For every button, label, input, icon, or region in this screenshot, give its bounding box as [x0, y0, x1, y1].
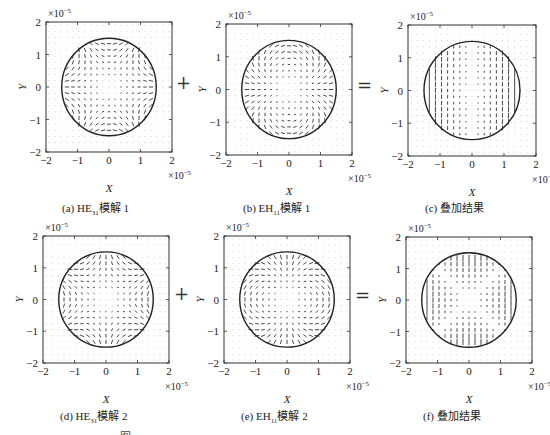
x-axis-label: X: [105, 182, 114, 194]
quiver-plot: −2−2−1−1001122×10−5×10−5XY: [43, 236, 169, 363]
caption-a: (a) HE31模解 1: [62, 199, 129, 217]
y-tick-label: 2: [398, 19, 404, 31]
y-tick-label: 2: [214, 230, 220, 242]
panel-e: −2−2−1−1001122×10−5×10−5XY: [224, 236, 350, 363]
y-tick-label: 1: [216, 51, 222, 63]
y-multiplier: ×10−5: [408, 222, 432, 234]
y-tick-label: −1: [389, 326, 401, 338]
x-axis-label: X: [285, 185, 294, 197]
y-tick-label: −2: [391, 150, 403, 162]
x-tick-label: 0: [284, 365, 290, 377]
y-tick-label: 0: [396, 294, 402, 306]
x-tick-label: 0: [466, 365, 472, 377]
x-tick-label: 0: [106, 154, 112, 166]
y-axis-label: Y: [376, 295, 388, 303]
y-tick-label: −1: [29, 114, 41, 126]
plus-operator: +: [176, 72, 191, 93]
y-tick-label: −1: [391, 117, 403, 129]
y-tick-label: 0: [36, 81, 42, 93]
x-tick-label: −1: [432, 365, 444, 377]
x-axis-label: X: [102, 393, 111, 405]
y-tick-label: −1: [209, 116, 221, 128]
y-axis-label: Y: [13, 295, 25, 303]
y-axis-label: Y: [194, 295, 206, 303]
x-axis-label: X: [468, 186, 477, 198]
x-tick-label: −2: [40, 154, 52, 166]
y-tick-label: −2: [26, 357, 38, 369]
quiver-plot: −2−2−1−1001122×10−5×10−5XY: [406, 237, 532, 363]
panel-b: −2−2−1−1001122×10−5×10−5XY: [226, 24, 352, 155]
x-tick-label: 1: [318, 157, 324, 169]
panel-f: −2−2−1−1001122×10−5×10−5XY: [406, 237, 532, 363]
equals-operator: =: [355, 285, 370, 306]
x-tick-label: 2: [169, 154, 175, 166]
equals-operator: =: [357, 75, 372, 96]
x-tick-label: 0: [286, 157, 292, 169]
y-axis-label: Y: [196, 85, 208, 93]
y-tick-label: 2: [33, 230, 39, 242]
x-tick-label: −1: [250, 365, 262, 377]
panel-c: −2−2−1−1001122×10−5×10−5XY: [408, 25, 536, 156]
y-tick-label: −2: [389, 357, 401, 369]
y-tick-label: 1: [36, 49, 42, 61]
x-tick-label: 2: [533, 158, 539, 170]
y-tick-label: 1: [214, 262, 220, 274]
x-tick-label: −1: [69, 365, 81, 377]
y-multiplier: ×10−5: [410, 10, 434, 22]
y-tick-label: 1: [398, 52, 404, 64]
x-tick-label: 1: [135, 365, 141, 377]
x-tick-label: −2: [402, 158, 414, 170]
plus-operator: +: [174, 283, 189, 304]
quiver-plot: −2−2−1−1001122×10−5×10−5XY: [408, 25, 536, 156]
y-tick-label: 0: [398, 85, 404, 97]
y-tick-label: −1: [26, 325, 38, 337]
x-tick-label: −2: [400, 365, 412, 377]
y-multiplier: ×10−5: [45, 221, 69, 233]
x-tick-label: 1: [316, 365, 322, 377]
x-tick-label: −2: [220, 157, 232, 169]
y-tick-label: −1: [207, 325, 219, 337]
panel-d: −2−2−1−1001122×10−5×10−5XY: [43, 236, 169, 363]
x-tick-label: 0: [469, 158, 475, 170]
x-axis-label: X: [465, 393, 474, 405]
x-tick-label: 1: [501, 158, 507, 170]
y-tick-label: 0: [33, 294, 39, 306]
caption-c: (c) 叠加结果: [425, 199, 484, 217]
y-tick-label: 0: [214, 294, 220, 306]
x-tick-label: 1: [138, 154, 144, 166]
x-tick-label: −1: [252, 157, 264, 169]
caption-e: (e) EH11模解 2: [241, 407, 308, 425]
y-multiplier: ×10−5: [228, 9, 252, 21]
figure-caption: 图: [120, 428, 131, 435]
y-tick-label: −2: [207, 357, 219, 369]
y-tick-label: 2: [396, 231, 402, 243]
x-multiplier: ×10−5: [346, 380, 370, 392]
x-multiplier: ×10−5: [528, 380, 550, 392]
y-tick-label: 2: [216, 18, 222, 30]
x-multiplier: ×10−5: [532, 173, 550, 185]
x-tick-label: 2: [347, 365, 353, 377]
y-tick-label: 0: [216, 84, 222, 96]
x-axis-label: X: [283, 393, 292, 405]
x-multiplier: ×10−5: [168, 169, 192, 181]
quiver-plot: −2−2−1−1001122×10−5×10−5XY: [46, 22, 172, 152]
x-tick-label: −1: [72, 154, 84, 166]
x-tick-label: 1: [498, 365, 504, 377]
y-axis-label: Y: [378, 86, 390, 94]
x-tick-label: 2: [349, 157, 355, 169]
y-tick-label: −2: [29, 146, 41, 158]
x-multiplier: ×10−5: [348, 172, 372, 184]
caption-b: (b) EH11模解 1: [243, 199, 310, 217]
y-tick-label: 1: [33, 262, 39, 274]
caption-f: (f) 叠加结果: [423, 407, 481, 425]
caption-d: (d) HE31模解 2: [60, 407, 128, 425]
x-tick-label: 0: [103, 365, 109, 377]
quiver-plot: −2−2−1−1001122×10−5×10−5XY: [226, 24, 352, 155]
x-tick-label: −2: [37, 365, 49, 377]
x-tick-label: −1: [434, 158, 446, 170]
y-axis-label: Y: [16, 82, 28, 90]
panel-a: −2−2−1−1001122×10−5×10−5XY: [46, 22, 172, 152]
y-tick-label: −2: [209, 149, 221, 161]
x-tick-label: 2: [166, 365, 172, 377]
y-multiplier: ×10−5: [226, 221, 250, 233]
